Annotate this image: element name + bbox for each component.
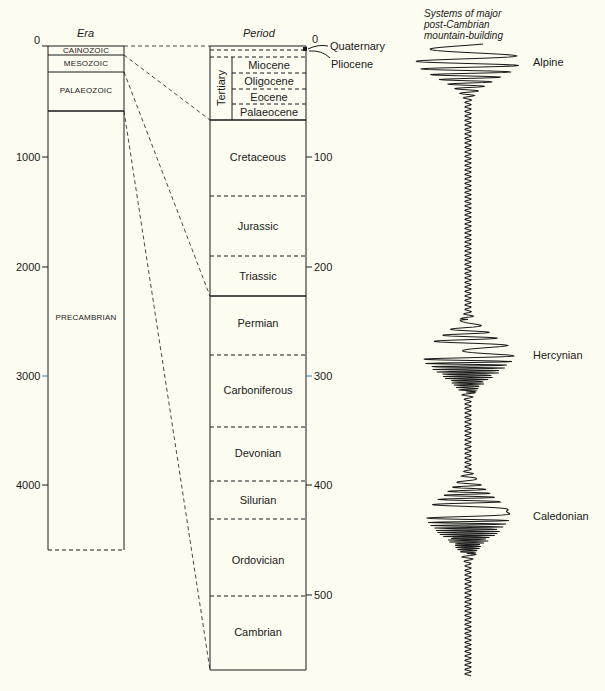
era-tick-label: 2000 — [16, 262, 40, 273]
era-tick-label: 4000 — [16, 480, 40, 491]
period-tick-label: 0 — [312, 34, 318, 45]
period-silurian: Silurian — [210, 495, 306, 506]
period-jurassic: Jurassic — [210, 221, 306, 232]
period-column — [210, 45, 330, 670]
period-tick-label: 300 — [314, 371, 332, 382]
epoch-miocene: Miocene — [232, 60, 306, 71]
era-header: Era — [77, 28, 94, 39]
era-palaeozoic: PALAEOZOIC — [48, 87, 124, 95]
period-cretaceous: Cretaceous — [210, 152, 306, 163]
tertiary-label: Tertiary — [215, 64, 227, 112]
period-triassic: Triassic — [210, 271, 306, 282]
epoch-palaeocene: Palaeocene — [232, 107, 306, 118]
mountain-building-header: Systems of major post-Cambrian mountain-… — [424, 8, 503, 41]
period-tick-label: 100 — [314, 152, 332, 163]
era-mesozoic: MESOZOIC — [48, 60, 124, 68]
era-tick-label: 1000 — [16, 152, 40, 163]
era-cainozoic: CAINOZOIC — [48, 47, 124, 55]
era-precambrian: PRECAMBRIAN — [48, 314, 124, 322]
epoch-oligocene: Oligocene — [232, 76, 306, 87]
era-tick-label: 0 — [34, 35, 40, 46]
period-cambrian: Cambrian — [210, 627, 306, 638]
period-carboniferous: Carboniferous — [210, 385, 306, 396]
quaternary-callout: Quaternary — [330, 41, 385, 52]
pliocene-callout: Pliocene — [331, 59, 373, 70]
period-tick-label: 200 — [314, 262, 332, 273]
period-tick-label: 500 — [314, 590, 332, 601]
period-tick-label: 400 — [314, 480, 332, 491]
era-tick-label: 3000 — [16, 371, 40, 382]
orogeny-wave-path — [417, 44, 519, 676]
period-header: Period — [243, 28, 275, 39]
geologic-time-diagram — [0, 0, 605, 691]
era-period-connectors — [124, 46, 210, 670]
period-devonian: Devonian — [210, 448, 306, 459]
orogeny-wave — [417, 44, 519, 676]
period-permian: Permian — [210, 318, 306, 329]
era-column — [42, 46, 124, 550]
epoch-eocene: Eocene — [232, 92, 306, 103]
orogeny-alpine: Alpine — [533, 57, 564, 68]
period-ordovician: Ordovician — [210, 555, 306, 566]
orogeny-caledonian: Caledonian — [533, 511, 589, 522]
orogeny-hercynian: Hercynian — [533, 350, 583, 361]
